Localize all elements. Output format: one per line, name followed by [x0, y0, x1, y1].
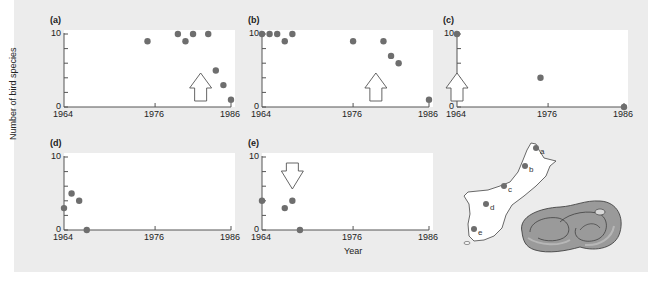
- map-site-label: d: [490, 203, 494, 212]
- map-site-a: [533, 145, 539, 151]
- map-site-label: b: [529, 165, 534, 174]
- brown-tree-snake-illustration: [522, 201, 622, 252]
- map-site-label: e: [478, 228, 483, 237]
- islet: [464, 242, 470, 245]
- map-site-b: [522, 163, 528, 169]
- map-site-c: [501, 183, 507, 189]
- guam-map: abcde: [0, 0, 665, 281]
- map-site-label: a: [540, 147, 545, 156]
- map-site-d: [483, 201, 489, 207]
- map-site-e: [471, 226, 477, 232]
- map-site-label: c: [508, 185, 512, 194]
